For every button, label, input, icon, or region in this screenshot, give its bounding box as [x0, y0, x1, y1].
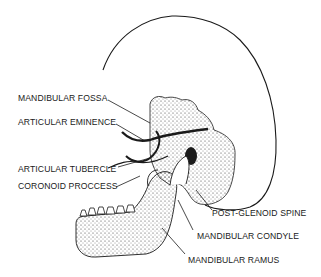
label-mandibular-condyle: MANDIBULAR CONDYLE — [197, 231, 299, 241]
label-articular-eminence: ARTICULAR EMINENCE — [18, 117, 116, 127]
label-articular-tubercle: ARTICULAR TUBERCLE — [18, 164, 116, 174]
label-post-glenoid-spine: POST-GLENOID SPINE — [212, 208, 306, 218]
label-coronoid-process: CORONOID PROCCESS — [18, 181, 118, 191]
label-mandibular-fossa: MANDIBULAR FOSSA — [18, 93, 107, 103]
tmj-anatomy-diagram: MANDIBULAR FOSSA ARTICULAR EMINENCE ARTI… — [0, 0, 321, 277]
label-mandibular-ramus: MANDIBULAR RAMUS — [188, 255, 279, 265]
